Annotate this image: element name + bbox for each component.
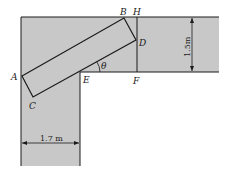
label-f: F	[132, 76, 140, 86]
label-theta: θ	[101, 61, 107, 71]
label-1-7m: 1.7 m	[40, 134, 63, 143]
label-b: B	[119, 7, 127, 17]
corridor-diagram: A B H D C E F θ 1.5m 1.7 m	[0, 0, 230, 175]
label-1-5m: 1.5m	[183, 36, 192, 57]
label-a: A	[10, 72, 18, 82]
label-h: H	[132, 7, 141, 17]
label-e: E	[82, 75, 90, 85]
label-c: C	[29, 101, 36, 111]
label-d: D	[138, 38, 146, 48]
